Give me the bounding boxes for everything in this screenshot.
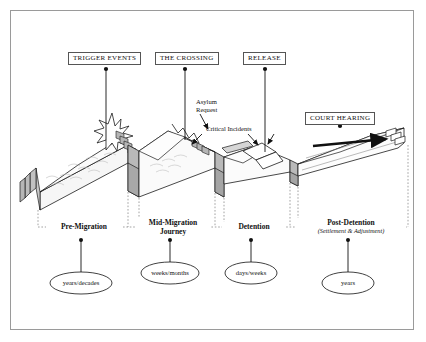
phase-label-pre-migration: Pre-Migration xyxy=(46,222,122,231)
detention-terrain xyxy=(222,141,298,186)
post-detention-line1: Post-Detention xyxy=(327,218,375,227)
phase-label-mid-migration: Mid-Migration Journey xyxy=(135,218,211,236)
asylum-request-line2: Request xyxy=(196,106,217,113)
event-box-release[interactable]: RELEASE xyxy=(243,52,286,65)
post-detention-terrain xyxy=(298,128,405,176)
post-detention-sublabel: (Settlement & Adjustment) xyxy=(299,227,403,234)
duration-label-post-detention: years xyxy=(322,279,374,286)
mid-migration-terrain xyxy=(139,124,224,197)
asylum-request-line1: Asylum xyxy=(196,98,217,105)
phase-label-post-detention: Post-Detention (Settlement & Adjustment) xyxy=(296,218,406,234)
diagram-canvas: TRIGGER EVENTS THE CROSSING RELEASE COUR… xyxy=(0,0,426,342)
event-leader-lines xyxy=(104,67,342,152)
annotation-critical-incidents: Critical Incidents xyxy=(206,125,252,133)
duration-label-detention: days/weeks xyxy=(225,269,277,276)
event-box-trigger-events[interactable]: TRIGGER EVENTS xyxy=(68,52,141,65)
phase-label-detention: Detention xyxy=(222,222,286,231)
duration-label-pre-migration: years/decades xyxy=(50,279,112,286)
mid-migration-line2: Journey xyxy=(138,227,208,236)
mid-migration-line1: Mid-Migration xyxy=(149,218,197,227)
pre-migration-terrain xyxy=(20,113,139,210)
duration-label-mid-migration: weeks/months xyxy=(141,269,199,276)
event-box-court-hearing[interactable]: COURT HEARING xyxy=(305,112,375,125)
event-box-the-crossing[interactable]: THE CROSSING xyxy=(155,52,219,65)
annotation-asylum-request: Asylum Request xyxy=(196,98,217,113)
